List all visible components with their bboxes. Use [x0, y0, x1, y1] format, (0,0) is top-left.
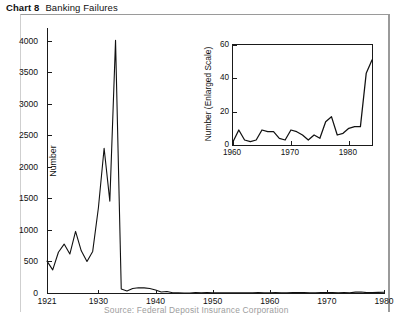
inset-y-tick-label: 60	[220, 40, 229, 49]
inset-y-tick	[233, 145, 237, 146]
inset-y-tick	[233, 78, 237, 79]
inset-y-tick	[233, 45, 237, 46]
inset-x-tick	[291, 141, 292, 145]
inset-y-tick	[233, 112, 237, 113]
inset-y-axis-title: Number (Enlarged Scale)	[203, 47, 213, 142]
inset-x-tick	[349, 141, 350, 145]
inset-x-tick-label: 1960	[223, 148, 241, 157]
source-caption: Source: Federal Deposit Insurance Corpor…	[104, 305, 289, 315]
inset-data-line	[233, 60, 372, 142]
inset-y-tick-label: 40	[220, 73, 229, 82]
inset-series-svg	[233, 45, 372, 145]
inset-y-tick-label: 20	[220, 106, 229, 115]
inset-plot-frame	[232, 44, 373, 146]
inset-x-tick-label: 1970	[281, 148, 299, 157]
inset-x-tick	[233, 141, 234, 145]
inset-x-tick-label: 1980	[339, 148, 357, 157]
